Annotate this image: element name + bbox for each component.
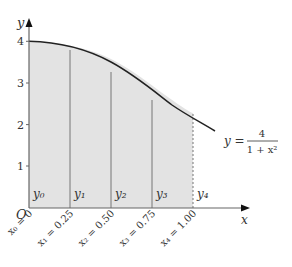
ordinate-label: y₃ xyxy=(155,187,168,201)
ordinate-label: y₁ xyxy=(73,187,86,201)
x-point-label: x₁ = 0.25 xyxy=(35,208,76,249)
y-tick-label: 1 xyxy=(17,160,24,173)
x-point-label: x₃ = 0.75 xyxy=(117,208,158,249)
ordinate-label: y₄ xyxy=(196,187,209,201)
y-axis-label: y xyxy=(16,15,25,30)
function-denominator: 1 + x² xyxy=(247,144,278,155)
function-numerator: 4 xyxy=(259,128,265,139)
x-axis-label: x xyxy=(241,213,248,227)
function-lhs: y = xyxy=(223,134,245,148)
trapezoid-rule-diagram: 1 2 3 4 y x O y₀ y₁ y₂ y₃ y₄ x₀ = 0 x₁ =… xyxy=(0,0,292,267)
ordinate-label: y₀ xyxy=(32,187,45,201)
ordinate-label: y₂ xyxy=(114,187,127,201)
x-point-label: x₂ = 0.50 xyxy=(76,208,117,249)
y-tick-label: 2 xyxy=(17,119,24,132)
y-tick-label: 3 xyxy=(17,77,24,90)
y-tick-label: 4 xyxy=(17,35,24,48)
x-axis-arrow-icon xyxy=(241,205,250,212)
x-point-label: x₄ = 1.00 xyxy=(158,208,199,249)
y-axis-arrow-icon xyxy=(26,18,33,27)
